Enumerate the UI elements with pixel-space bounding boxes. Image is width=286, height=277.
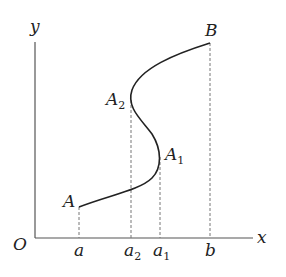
tick-label-a2: a2	[124, 240, 141, 263]
point-label-a: A	[61, 191, 75, 211]
point-label-a2: A2	[104, 89, 125, 112]
tick-label-a: a	[74, 240, 84, 260]
x-axis-label: x	[257, 227, 267, 247]
point-label-b: B	[204, 20, 218, 40]
curve	[79, 43, 210, 207]
point-label-a1: A1	[163, 144, 184, 167]
y-axis-label: y	[29, 16, 40, 36]
tick-label-a1: a1	[153, 240, 170, 263]
diagram: y x O A A1 A2 B a a2 a1 b	[0, 0, 286, 277]
tick-label-b: b	[205, 240, 216, 260]
origin-label: O	[13, 234, 27, 254]
